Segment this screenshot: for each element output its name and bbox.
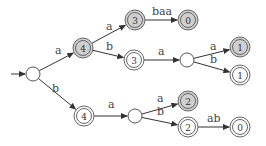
state-label: 2	[185, 97, 191, 107]
state-circle	[128, 109, 142, 123]
edge-label: ab	[207, 112, 221, 125]
edge-label: a	[108, 98, 115, 111]
state-label: 0	[237, 123, 243, 133]
node-n0a: 0	[178, 10, 198, 30]
edge-m2-n2b	[142, 117, 177, 124]
node-n4a: 4	[73, 38, 93, 58]
node-n3b: 3	[124, 50, 144, 70]
edge-label: a	[157, 92, 164, 105]
edge-label: b	[52, 82, 59, 95]
trie-diagram: ababbaaaabaabab 4303114220	[0, 0, 266, 146]
node-n3a: 3	[125, 10, 145, 30]
state-label: 1	[237, 71, 243, 81]
state-label: 3	[132, 16, 138, 26]
state-circle	[180, 53, 194, 67]
node-n2b: 2	[178, 117, 198, 137]
edge-label: b	[210, 53, 217, 66]
state-label: 3	[131, 56, 137, 66]
state-label: 1	[237, 43, 243, 53]
node-n1b: 1	[230, 65, 250, 85]
edge-label: a	[158, 45, 165, 58]
edge-label: b	[157, 105, 164, 118]
node-n4b: 4	[74, 106, 94, 126]
node-root	[11, 67, 40, 81]
state-label: 4	[81, 112, 87, 122]
state-label: 2	[185, 123, 191, 133]
node-n0b: 0	[230, 117, 250, 137]
node-n2a: 2	[178, 91, 198, 111]
edge-label: b	[106, 40, 113, 53]
state-circle	[26, 67, 40, 81]
node-m1	[180, 53, 194, 67]
edge-label: a	[106, 20, 113, 33]
edge-label: a	[210, 40, 217, 53]
edge-label: baa	[152, 5, 173, 18]
node-m2	[128, 109, 142, 123]
state-label: 4	[80, 44, 86, 54]
node-n1a: 1	[230, 37, 250, 57]
state-label: 0	[185, 16, 191, 26]
edge-label: a	[55, 44, 62, 57]
